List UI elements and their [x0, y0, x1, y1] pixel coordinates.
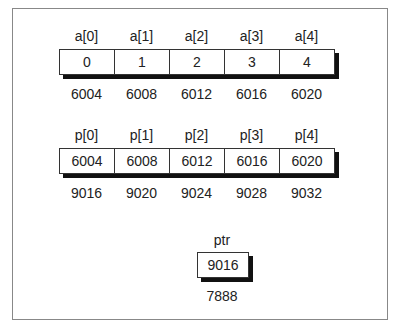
address: 6012: [169, 86, 224, 102]
address: 9032: [279, 185, 334, 201]
label: p[3]: [224, 127, 279, 143]
cell: 1: [115, 50, 170, 74]
cell: 6016: [225, 149, 280, 173]
cell: 6020: [280, 149, 334, 173]
address: 9024: [169, 185, 224, 201]
label: p[2]: [169, 127, 224, 143]
cell: 0: [60, 50, 115, 74]
array-a-addresses: 6004 6008 6012 6016 6020: [59, 86, 334, 102]
ptr-cell: 9016: [197, 252, 249, 278]
address: 6020: [279, 86, 334, 102]
address: 9028: [224, 185, 279, 201]
array-p-addresses: 9016 9020 9024 9028 9032: [59, 185, 334, 201]
cell: 3: [225, 50, 280, 74]
array-a-cells: 0 1 2 3 4: [59, 49, 335, 75]
label: a[1]: [114, 28, 169, 44]
array-p-cells: 6004 6008 6012 6016 6020: [59, 148, 335, 174]
ptr-address: 7888: [192, 288, 252, 304]
label: a[3]: [224, 28, 279, 44]
address: 6016: [224, 86, 279, 102]
label: p[4]: [279, 127, 334, 143]
cell: 6004: [60, 149, 115, 173]
ptr-label: ptr: [192, 232, 252, 248]
label: p[0]: [59, 127, 114, 143]
address: 9020: [114, 185, 169, 201]
array-p-labels: p[0] p[1] p[2] p[3] p[4]: [59, 127, 334, 143]
label: a[0]: [59, 28, 114, 44]
label: a[2]: [169, 28, 224, 44]
address: 6004: [59, 86, 114, 102]
address: 9016: [59, 185, 114, 201]
array-a-labels: a[0] a[1] a[2] a[3] a[4]: [59, 28, 334, 44]
cell: 4: [280, 50, 334, 74]
cell: 6008: [115, 149, 170, 173]
cell: 2: [170, 50, 225, 74]
label: p[1]: [114, 127, 169, 143]
cell: 6012: [170, 149, 225, 173]
address: 6008: [114, 86, 169, 102]
label: a[4]: [279, 28, 334, 44]
